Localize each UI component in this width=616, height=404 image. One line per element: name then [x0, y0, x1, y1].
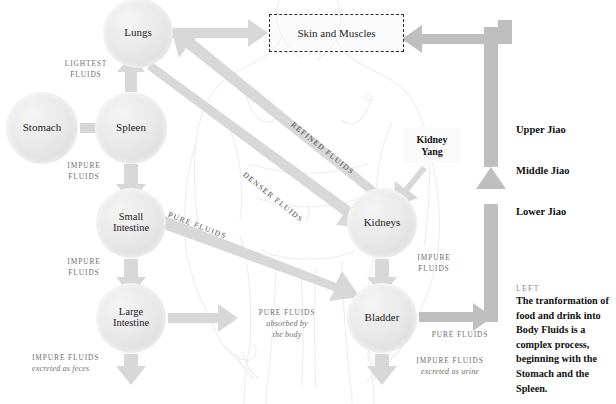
- node-small-intestine[interactable]: Small Intestine: [96, 188, 166, 258]
- label-impure-fluids-spleen: IMPURE FLUIDS: [52, 160, 116, 182]
- label-lower-jiao: Lower Jiao: [516, 206, 566, 217]
- node-bladder-label: Bladder: [363, 312, 402, 323]
- kidney-yang-box[interactable]: Kidney Yang: [403, 128, 461, 163]
- node-kidneys-label: Kidneys: [362, 217, 403, 228]
- label-impure-fluids-kidneys: IMPURE FLUIDS: [402, 252, 466, 274]
- node-spleen[interactable]: Spleen: [95, 92, 167, 164]
- node-large-intestine[interactable]: Large Intestine: [96, 283, 166, 353]
- label-absorbed-by-the-body: absorbed by the body: [243, 318, 331, 340]
- kidney-yang-label: Kidney Yang: [416, 134, 447, 158]
- node-stomach-label: Stomach: [21, 122, 64, 133]
- label-upper-jiao: Upper Jiao: [516, 124, 566, 135]
- label-excreted-as-feces: excreted as feces: [32, 363, 132, 374]
- node-spleen-label: Spleen: [114, 122, 148, 133]
- label-impure-fluids-small-intestine: IMPURE FLUIDS: [52, 256, 116, 278]
- skin-and-muscles-label: Skin and Muscles: [297, 27, 375, 39]
- arrow-large-intestine-to-body: [168, 304, 238, 332]
- node-small-intestine-label: Small Intestine: [111, 212, 151, 233]
- skin-and-muscles-box[interactable]: Skin and Muscles: [269, 14, 404, 52]
- label-impure-fluids-urine: IMPURE FLUIDS: [398, 355, 502, 366]
- node-large-intestine-label: Large Intestine: [111, 307, 151, 328]
- node-bladder[interactable]: Bladder: [347, 283, 417, 353]
- arrow-small-intestine-to-kidneys: [155, 214, 360, 301]
- label-excreted-as-urine: excreted as urine: [398, 366, 502, 377]
- label-pure-fluids-body: PURE FLUIDS: [243, 307, 331, 318]
- arrow-bladder-to-riser: [419, 303, 493, 331]
- arrow-bladder-to-urine: [367, 354, 397, 385]
- diagram-canvas: .a { fill:#d8d8d8; } .ad { fill:#bfbfbf;…: [0, 0, 616, 404]
- label-middle-jiao: Middle Jiao: [516, 165, 569, 176]
- node-stomach[interactable]: Stomach: [6, 92, 78, 164]
- label-pure-fluids-bladder: PURE FLUIDS: [418, 329, 502, 340]
- node-kidneys[interactable]: Kidneys: [347, 188, 417, 258]
- arrow-lungs-to-kidneys-denser: [147, 62, 367, 228]
- label-lightest-fluids: LIGHTEST FLUIDS: [48, 58, 124, 80]
- caption-body: The tranformation of food and drink into…: [516, 294, 616, 396]
- caption-kicker: LEFT: [516, 284, 540, 293]
- node-lungs-label: Lungs: [122, 27, 154, 38]
- label-impure-fluids-feces: IMPURE FLUIDS: [32, 352, 132, 363]
